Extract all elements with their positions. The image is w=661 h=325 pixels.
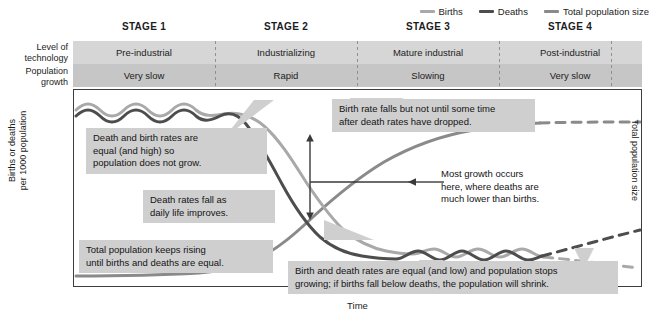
annotation-most-growth: Most growth occurs here, where deaths ar…	[441, 168, 591, 206]
growth-cell-stage-1: Very slow	[73, 64, 215, 87]
annotation-total-pop-rising: Total population keeps rising until birt…	[79, 240, 273, 273]
row-label-technology: Level of technology	[4, 42, 68, 63]
technology-cell-stage-4: Post-industrial	[499, 41, 641, 64]
arrowhead-up-icon	[306, 134, 314, 142]
line-swatch-icon	[420, 10, 435, 13]
growth-cell-stage-2: Rapid	[215, 64, 357, 87]
technology-cell-stage-1: Pre-industrial	[73, 41, 215, 64]
legend-label-deaths: Deaths	[498, 6, 528, 17]
y-axis-label-left: Births or deaths per 1000 population	[7, 76, 28, 226]
stage-title-2: STAGE 2	[215, 21, 357, 32]
pointer-death-rates-fall	[324, 220, 374, 240]
stage-title-4: STAGE 4	[499, 21, 641, 32]
growth-cell-stage-3: Slowing	[357, 64, 499, 87]
line-swatch-icon	[544, 10, 559, 13]
annotation-rates-equal-low: Birth and death rates are equal (and low…	[288, 261, 618, 294]
growth-cell-stage-4: Very slow	[499, 64, 641, 87]
line-swatch-icon	[479, 10, 494, 13]
annotation-death-birth-equal: Death and birth rates are equal (and hig…	[86, 128, 267, 174]
legend-item-total-population: Total population size	[544, 6, 649, 17]
technology-cell-stage-3: Mature industrial	[357, 41, 499, 64]
x-axis-label: Time	[73, 300, 642, 311]
annotation-birth-rate-falls: Birth rate falls but not until some time…	[332, 99, 535, 132]
annotation-death-rates-fall: Death rates fall as daily life improves.	[143, 190, 275, 223]
legend-label-total-population: Total population size	[563, 6, 649, 17]
demographic-transition-diagram: Births Deaths Total population size STAG…	[0, 0, 661, 325]
stage-title-1: STAGE 1	[73, 21, 215, 32]
legend-label-births: Births	[439, 6, 463, 17]
technology-cell-stage-2: Industrializing	[215, 41, 357, 64]
y-axis-label-right: Total population size	[630, 95, 641, 225]
growth-band: Very slow Rapid Slowing Very slow	[73, 64, 642, 87]
chart-legend: Births Deaths Total population size	[420, 6, 650, 17]
legend-item-deaths: Deaths	[479, 6, 528, 17]
series-total-population-projection	[540, 122, 640, 123]
legend-item-births: Births	[420, 6, 463, 17]
technology-band: Pre-industrial Industrializing Mature in…	[73, 41, 642, 64]
stage-title-3: STAGE 3	[357, 21, 499, 32]
stage-titles: STAGE 1 STAGE 2 STAGE 3 STAGE 4	[73, 21, 642, 37]
arrowhead-left-icon	[408, 178, 416, 186]
